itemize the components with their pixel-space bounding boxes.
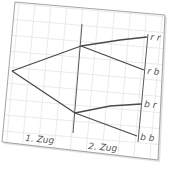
outcome-label-bb: b b (140, 132, 155, 143)
outcome-label-rb: r b (147, 66, 160, 77)
diagram-stage: r r r b b r b b 1. Zug 2. Zug (0, 0, 172, 170)
tree-diagram-canvas: r r r b b r b b 1. Zug 2. Zug (0, 0, 172, 170)
outcome-label-br: b r (144, 99, 158, 110)
